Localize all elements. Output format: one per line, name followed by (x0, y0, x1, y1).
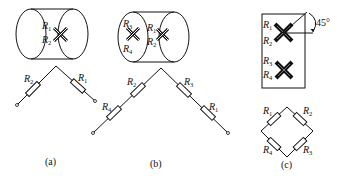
terminal (227, 132, 230, 135)
label-a-R1: R1 (41, 20, 51, 32)
caption-c: (c) (281, 159, 292, 171)
label-a-R2: R2 (41, 34, 51, 46)
label-c-R3: R3 (262, 55, 272, 67)
label-c-R4: R4 (262, 69, 273, 81)
label-b-cR4: R4 (101, 101, 112, 113)
panel-b: R3 R4 R1 R2 R2 R4 R3 R1 (b) (92, 12, 230, 170)
gauge-cross-c-lower (276, 62, 292, 78)
label-b-R1: R1 (146, 22, 156, 34)
label-a-cR1: R1 (77, 72, 87, 84)
cylinder-a (16, 9, 88, 59)
label-c-bR4: R4 (262, 144, 273, 156)
label-c-R1: R1 (262, 19, 272, 31)
caption-a: (a) (45, 156, 56, 168)
panel-a: R1 R2 R2 R1 (a) (16, 9, 97, 168)
strain-gauge-diagram: R1 R2 R2 R1 (a) (0, 0, 346, 183)
label-c-bR3: R3 (302, 144, 312, 156)
angle-label: 45° (316, 17, 330, 28)
terminal (92, 132, 95, 135)
label-b-cR2: R2 (126, 76, 136, 88)
caption-b: (b) (150, 158, 162, 170)
label-b-cR1: R1 (208, 101, 218, 113)
label-b-R2: R2 (146, 36, 156, 48)
label-b-R4: R4 (122, 43, 133, 55)
label-c-bR1: R1 (262, 105, 272, 117)
label-b-R3: R3 (122, 18, 132, 30)
label-a-cR2: R2 (23, 73, 33, 85)
label-c-bR2: R2 (302, 105, 312, 117)
gauge-cross-a (54, 28, 67, 41)
terminal (16, 104, 19, 107)
label-c-R2: R2 (262, 35, 272, 47)
panel-c: 45° R1 R2 R3 R4 R1 R2 R4 R3 (c) (261, 12, 330, 171)
label-b-cR3: R3 (183, 76, 193, 88)
terminal (94, 100, 97, 103)
